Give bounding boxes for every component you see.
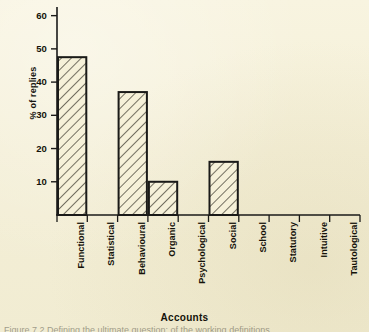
y-tick-label: 60 [21,10,47,21]
x-category-label: Social [228,222,240,308]
y-axis-title: % of replies [28,48,38,138]
y-tick-label: 50 [21,43,47,54]
y-tick-label: 30 [21,109,47,120]
y-tick-label: 10 [21,176,47,187]
x-category-label: Tautological [349,222,361,308]
chart-plot-area [0,0,369,332]
figure-bar-chart: % of replies 102030405060 FunctionalStat… [0,0,369,332]
x-category-label: Functional [76,222,88,308]
x-axis-title: Accounts [0,312,369,323]
x-category-label: Psychological [197,222,209,308]
figure-caption-clipped: Figure 7.2 Defining the ultimate questio… [4,325,364,332]
y-tick-label: 20 [21,143,47,154]
x-category-label: Statistical [106,222,118,308]
x-category-label: School [258,222,270,308]
x-category-label: Statutory [288,222,300,308]
x-category-label: Intuitive [319,222,331,308]
x-category-label: Behavioural [137,222,149,308]
x-category-label: Organic [167,222,179,308]
y-tick-label: 40 [21,76,47,87]
